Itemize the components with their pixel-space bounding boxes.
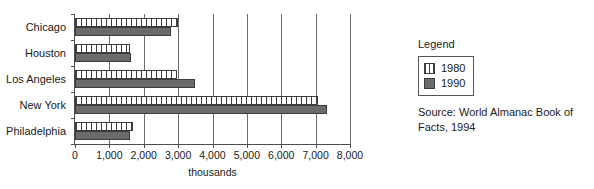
- category-label: Philadelphia: [0, 118, 71, 144]
- source-note: Source: World Almanac Book of Facts, 199…: [418, 105, 588, 135]
- bar-philadelphia-1980: [75, 122, 133, 131]
- bar-new-york-1980: [75, 96, 318, 105]
- category-label: Los Angeles: [0, 66, 71, 92]
- legend-box: 19801990: [418, 56, 474, 96]
- category-label: Chicago: [0, 14, 71, 40]
- legend-item-1980: 1980: [424, 61, 465, 76]
- x-axis-tick-label: 3,000: [165, 150, 191, 161]
- x-axis-tick-label: 2,000: [131, 150, 157, 161]
- legend-label: 1990: [441, 78, 465, 89]
- x-axis-title: thousands: [75, 166, 350, 178]
- x-axis-tick: [178, 144, 179, 148]
- bar-group: [75, 14, 350, 40]
- legend-swatch-icon-1990: [424, 78, 435, 89]
- x-axis-tick-label: 8,000: [337, 150, 363, 161]
- category-axis-labels: ChicagoHoustonLos AngelesNew YorkPhilade…: [0, 14, 71, 144]
- legend: Legend 19801990 Source: World Almanac Bo…: [418, 38, 594, 135]
- x-axis-tick: [213, 144, 214, 148]
- bar-new-york-1990: [75, 105, 327, 114]
- x-axis-tick-label: 7,000: [302, 150, 328, 161]
- x-axis-tick: [247, 144, 248, 148]
- x-axis-tick: [109, 144, 110, 148]
- bar-houston-1980: [75, 44, 130, 53]
- bar-group: [75, 92, 350, 118]
- bar-chicago-1990: [75, 27, 171, 36]
- bar-chart-figure: ChicagoHoustonLos AngelesNew YorkPhilade…: [0, 0, 594, 189]
- x-axis-tick: [75, 144, 76, 148]
- legend-label: 1980: [441, 63, 465, 74]
- plot-region: 01,0002,0003,0004,0005,0006,0007,0008,00…: [75, 14, 350, 144]
- bar-group: [75, 40, 350, 66]
- legend-item-1990: 1990: [424, 76, 465, 91]
- x-axis-tick: [281, 144, 282, 148]
- bar-philadelphia-1990: [75, 131, 130, 140]
- legend-swatch-icon-1980: [424, 63, 435, 74]
- x-axis-tick-label: 4,000: [199, 150, 225, 161]
- bar-los-angeles-1990: [75, 79, 195, 88]
- bar-houston-1990: [75, 53, 131, 62]
- x-axis-tick-label: 1,000: [96, 150, 122, 161]
- legend-title: Legend: [418, 38, 594, 50]
- bar-chicago-1980: [75, 18, 178, 27]
- x-axis-tick: [316, 144, 317, 148]
- bar-group: [75, 118, 350, 144]
- x-axis-tick-label: 6,000: [268, 150, 294, 161]
- bar-los-angeles-1980: [75, 70, 177, 79]
- chart-plot-area: ChicagoHoustonLos AngelesNew YorkPhilade…: [0, 0, 390, 189]
- x-axis-tick: [350, 144, 351, 148]
- category-label: New York: [0, 92, 71, 118]
- category-label: Houston: [0, 40, 71, 66]
- x-axis-tick-label: 0: [72, 150, 78, 161]
- x-axis-tick: [144, 144, 145, 148]
- bar-group: [75, 66, 350, 92]
- x-axis-tick-label: 5,000: [234, 150, 260, 161]
- gridline: [350, 14, 351, 144]
